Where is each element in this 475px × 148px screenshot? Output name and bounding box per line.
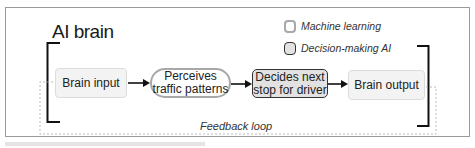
caption-strip — [5, 142, 205, 146]
node-decides-next-stop: Decides next stop for driver — [252, 69, 328, 98]
node-brain-output: Brain output — [348, 70, 425, 100]
node-label: Perceives traffic patterns — [153, 70, 229, 96]
diagram-title: AI brain — [52, 21, 113, 43]
node-label: Decides next stop for driver — [253, 71, 326, 97]
machine-learning-legend-icon — [284, 20, 296, 33]
node-label-line1: Perceives — [164, 69, 217, 83]
node-label-line2: stop for driver — [253, 83, 326, 97]
feedback-loop-label: Feedback loop — [200, 120, 272, 132]
legend-label-machine-learning: Machine learning — [301, 20, 381, 32]
node-label: Brain output — [354, 79, 419, 92]
node-label: Brain input — [62, 77, 119, 90]
node-brain-input: Brain input — [55, 68, 127, 98]
node-perceives-traffic-patterns: Perceives traffic patterns — [150, 68, 231, 98]
node-label-line2: traffic patterns — [153, 82, 229, 96]
node-label-line1: Decides next — [255, 70, 324, 84]
legend-label-decision-making: Decision-making AI — [301, 42, 391, 54]
decision-making-legend-icon — [284, 42, 296, 55]
